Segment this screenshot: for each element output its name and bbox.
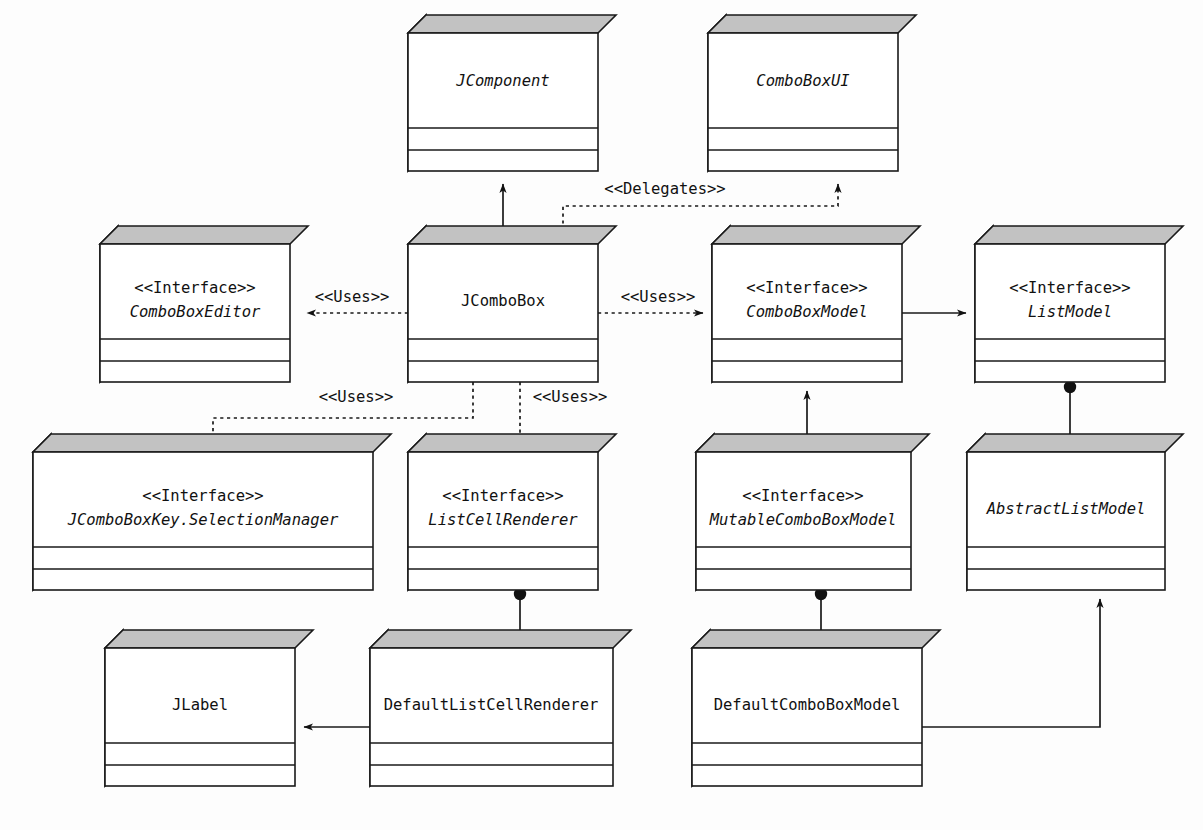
- stereotype-comboboxmodel: <<Interface>>: [746, 279, 867, 297]
- uml-class-diagram: JComponent ComboBoxUI <<Interface>> Comb…: [0, 0, 1203, 830]
- class-name-listmodel: ListModel: [1028, 303, 1112, 321]
- class-box-mutablecomboboxmodel[interactable]: <<Interface>> MutableComboBoxModel: [696, 434, 929, 590]
- class-box-listmodel[interactable]: <<Interface>> ListModel: [975, 226, 1183, 382]
- edge-label-uses-comboboxmodel: <<Uses>>: [621, 288, 696, 306]
- class-name-comboboxeditor: ComboBoxEditor: [130, 303, 261, 321]
- class-box-jlabel[interactable]: JLabel: [105, 630, 313, 786]
- class-box-comboboxui[interactable]: ComboBoxUI: [708, 15, 916, 171]
- class-name-selectionmanager: JComboBoxKey.SelectionManager: [67, 511, 339, 529]
- class-name-comboboxmodel: ComboBoxModel: [746, 303, 867, 321]
- class-name-abstractlistmodel: AbstractListModel: [986, 500, 1146, 518]
- class-name-mutablecomboboxmodel: MutableComboBoxModel: [709, 511, 897, 529]
- edge-label-uses-selectionmanager: <<Uses>>: [319, 388, 394, 406]
- class-box-selectionmanager[interactable]: <<Interface>> JComboBoxKey.SelectionMana…: [33, 434, 391, 590]
- edge-label-uses-comboboxeditor: <<Uses>>: [315, 288, 390, 306]
- class-name-comboboxui: ComboBoxUI: [756, 72, 849, 90]
- stereotype-listmodel: <<Interface>>: [1009, 279, 1130, 297]
- class-name-jlabel: JLabel: [172, 696, 228, 714]
- stereotype-mutablecomboboxmodel: <<Interface>>: [742, 487, 863, 505]
- uml-diagram-canvas: JComponent ComboBoxUI <<Interface>> Comb…: [0, 0, 1203, 830]
- stereotype-selectionmanager: <<Interface>>: [142, 487, 263, 505]
- class-name-defaultlistcellrenderer: DefaultListCellRenderer: [384, 696, 599, 714]
- class-name-jcomponent: JComponent: [455, 72, 549, 90]
- class-box-comboboxeditor[interactable]: <<Interface>> ComboBoxEditor: [100, 226, 308, 382]
- class-box-abstractlistmodel[interactable]: AbstractListModel: [967, 434, 1183, 590]
- class-box-defaultcomboboxmodel[interactable]: DefaultComboBoxModel: [692, 630, 940, 786]
- class-box-listcellrenderer[interactable]: <<Interface>> ListCellRenderer: [408, 434, 616, 590]
- class-box-jcomponent[interactable]: JComponent: [408, 15, 616, 171]
- edge-label-uses-listcellrenderer: <<Uses>>: [533, 388, 608, 406]
- stereotype-listcellrenderer: <<Interface>>: [442, 487, 563, 505]
- edge-label-delegates: <<Delegates>>: [604, 180, 725, 198]
- class-box-jcombobox[interactable]: JComboBox: [408, 226, 616, 382]
- stereotype-comboboxeditor: <<Interface>>: [134, 279, 255, 297]
- class-box-comboboxmodel[interactable]: <<Interface>> ComboBoxModel: [712, 226, 920, 382]
- class-box-defaultlistcellrenderer[interactable]: DefaultListCellRenderer: [370, 630, 631, 786]
- edge-defaultcomboboxmodel-extends-abstractlistmodel: [922, 599, 1100, 727]
- class-name-jcombobox: JComboBox: [461, 292, 545, 310]
- class-name-defaultcomboboxmodel: DefaultComboBoxModel: [714, 696, 901, 714]
- class-name-listcellrenderer: ListCellRenderer: [428, 511, 578, 529]
